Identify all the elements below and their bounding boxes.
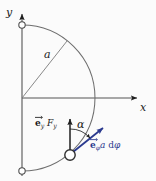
x-axis-label: x	[140, 101, 147, 114]
radius-label: a	[44, 48, 51, 61]
differential-phi: φ	[114, 140, 121, 150]
force-vector-label-text: ey Fy	[35, 118, 57, 130]
mass-point-node	[65, 150, 75, 160]
arc-element-vector-label: eφa dφ	[90, 138, 121, 152]
arc-bottom-node	[19, 168, 25, 174]
y-axis-label: y	[5, 6, 13, 19]
arc-top-node	[19, 22, 25, 28]
force-subscript: y	[52, 122, 57, 130]
force-vector-label: ey Fy	[35, 116, 57, 130]
arc-element-vector-label-text: eφa dφ	[90, 140, 121, 152]
angle-alpha-label: α	[77, 118, 85, 131]
physics-diagram-figure: y x a α ey Fy eφa dφ	[0, 0, 156, 181]
diagram-canvas: y x a α ey Fy eφa dφ	[0, 0, 156, 181]
